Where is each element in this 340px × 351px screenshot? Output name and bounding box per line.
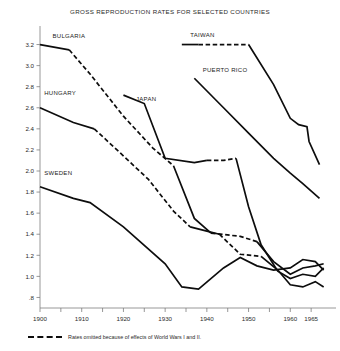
y-tick-label: 2.4 (25, 125, 34, 132)
series-line-segment (219, 234, 261, 256)
series-line-segment (257, 242, 324, 275)
x-tick-label: 1960 (283, 315, 297, 322)
x-tick-label: 1965 (304, 315, 318, 322)
series-puerto-rico: PUERTO RICO (194, 67, 319, 198)
series-label: PUERTO RICO (203, 67, 248, 73)
x-tick-label: 1940 (200, 315, 214, 322)
y-tick-label: 2.6 (25, 104, 34, 111)
series-line-segment (94, 129, 190, 227)
series-label: BULGARIA (53, 33, 86, 39)
x-tick-label: 1950 (242, 315, 256, 322)
line-chart-plot: 3.23.02.82.62.42.22.01.81.61.41.21.0.819… (0, 0, 340, 351)
series-line-segment (249, 45, 320, 165)
y-tick-label: 1.8 (25, 188, 34, 195)
series-taiwan: TAIWAN (182, 32, 320, 165)
x-tick-label: 1910 (75, 315, 89, 322)
series-line-segment (194, 78, 319, 198)
chart-container: GROSS REPRODUCTION RATES FOR SELECTED CO… (0, 0, 340, 351)
x-tick-label: 1900 (33, 315, 47, 322)
y-tick-label: 1.2 (25, 252, 34, 259)
series-bulgaria: BULGARIA (40, 33, 324, 274)
y-tick-label: 2.0 (25, 167, 34, 174)
y-tick-label: 3.0 (25, 62, 34, 69)
x-tick-label: 1930 (158, 315, 172, 322)
y-tick-label: 1.4 (25, 230, 34, 237)
series-line-segment (40, 108, 94, 129)
footnote-text: Rates omitted because of effects of Worl… (68, 334, 201, 340)
footnote: Rates omitted because of effects of Worl… (28, 334, 201, 340)
omitted-rates-key-icon (28, 336, 62, 338)
series-label: TAIWAN (190, 32, 214, 38)
y-tick-label: 1.6 (25, 209, 34, 216)
series-line-segment (69, 50, 173, 166)
x-tick-label: 1920 (117, 315, 131, 322)
y-tick-label: 2.2 (25, 146, 34, 153)
series-line-segment (173, 166, 211, 233)
series-line-segment (207, 158, 236, 160)
y-tick-label: 3.2 (25, 41, 34, 48)
y-tick-label: .8 (29, 294, 35, 301)
series-japan: JAPAN (123, 95, 323, 278)
y-tick-label: 2.8 (25, 83, 34, 90)
series-line-segment (40, 45, 69, 50)
series-label: SWEDEN (44, 170, 72, 176)
series-label: HUNGARY (44, 90, 76, 96)
y-tick-label: 1.0 (25, 273, 34, 280)
series-label: JAPAN (136, 96, 156, 102)
